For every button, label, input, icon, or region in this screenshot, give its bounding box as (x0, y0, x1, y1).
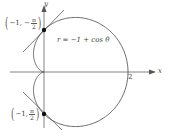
point-lower (42, 112, 46, 116)
theta-fraction: π 2 (31, 17, 37, 30)
right-paren: ) (38, 16, 41, 30)
y-axis-label: y (44, 1, 48, 8)
point-upper (42, 28, 46, 32)
point-label-upper: ( −1, − π 2 ) (4, 16, 42, 30)
left-paren: ( (5, 16, 8, 30)
x-axis-label: x (158, 68, 162, 75)
point-r: −1, (15, 111, 28, 118)
point-r: −1, (9, 20, 22, 27)
x-tick-2: 2 (128, 74, 132, 81)
right-paren: ) (36, 107, 39, 121)
left-paren: ( (11, 107, 14, 121)
theta-denominator: 2 (30, 115, 34, 121)
theta-sign: − (24, 20, 30, 27)
theta-fraction: π 2 (29, 108, 35, 121)
theta-denominator: 2 (32, 24, 36, 30)
x-axis-arrow-icon (149, 70, 156, 75)
point-label-lower: ( −1, π 2 ) (10, 107, 40, 121)
equation-label: r = −1 + cos θ (57, 37, 109, 44)
